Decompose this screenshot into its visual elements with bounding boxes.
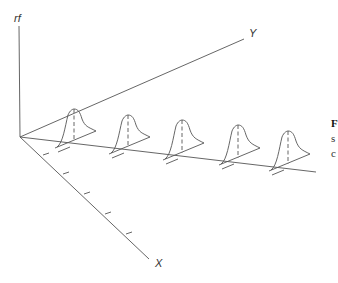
curve-base-edge [272, 170, 284, 175]
caption-fragment-2: s [331, 133, 335, 144]
axes [19, 26, 316, 259]
caption-fragment-3: c [331, 148, 336, 159]
x-tick [105, 212, 111, 214]
vertical-axis-rf [19, 26, 20, 137]
caption-fragment-1: F [331, 118, 338, 129]
curve-base-line [163, 143, 204, 160]
curve-base-edge [222, 164, 234, 169]
distribution-diagram [0, 0, 338, 283]
x-tick [126, 232, 132, 234]
vertical-axis-label: rf [14, 13, 21, 24]
x-axis-label: X [155, 258, 162, 269]
baseline-axis [20, 137, 316, 172]
normal-curves [55, 109, 310, 175]
bell-curve [221, 125, 260, 164]
bell-curve [271, 131, 310, 170]
normal-curve [269, 131, 310, 175]
y-axis-label: Y [249, 28, 256, 39]
x-tick [84, 192, 90, 194]
diagram-figure: rf Y X F s c [0, 0, 338, 283]
bell-curve [111, 115, 150, 153]
normal-curve [163, 120, 204, 164]
x-axis [20, 137, 149, 259]
x-tick [43, 153, 49, 155]
x-axis-ticks [43, 153, 132, 234]
normal-curve [219, 125, 260, 169]
bell-curve [165, 120, 204, 159]
x-tick [63, 172, 69, 174]
curve-base-edge [58, 147, 70, 152]
curve-base-line [219, 148, 260, 165]
curve-base-edge [112, 153, 124, 158]
y-axis [20, 39, 244, 137]
bell-curve [57, 109, 96, 147]
curve-base-edge [166, 159, 178, 164]
